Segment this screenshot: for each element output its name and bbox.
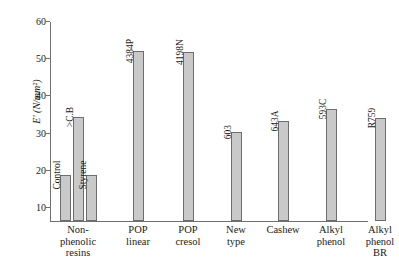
- bar-value-label: 4198N: [175, 39, 188, 65]
- bar-value-label: >C.B: [65, 107, 78, 127]
- x-axis-category-label-line: BR: [347, 247, 399, 259]
- y-axis-tick-label: 40: [0, 91, 46, 101]
- bar-group-item: Styrene: [86, 175, 97, 221]
- x-axis-category-label-line: Non-: [45, 224, 111, 236]
- y-axis-title-text: E' (N/mm²): [31, 79, 42, 123]
- y-axis-tick-label: 50: [0, 54, 46, 64]
- bar-group-item: 4384P: [133, 51, 144, 221]
- x-axis-category-label-line: phenol: [347, 236, 399, 248]
- y-axis-tick-label: 10: [0, 203, 46, 213]
- x-axis-category-label-line: type: [203, 236, 269, 248]
- plot-area: Control>C.BStyrene4384P4198N603643A593CR…: [50, 22, 370, 221]
- bar-value-label: R759: [367, 108, 380, 129]
- bar-group-item: Control: [60, 175, 71, 221]
- bar-value-label: 603: [223, 125, 236, 139]
- y-axis-tick-label: 20: [0, 166, 46, 176]
- bar-group-item: 4198N: [183, 52, 194, 221]
- bar: [326, 109, 337, 221]
- bar-group-item: 603: [231, 132, 242, 221]
- bar-group-item: R759: [375, 118, 386, 221]
- bar: [231, 132, 242, 221]
- x-axis-category-label-line: Alkyl: [347, 224, 399, 236]
- y-axis-tick-label: 30: [0, 129, 46, 139]
- x-axis-category-label: Non-phenolicresins: [45, 224, 111, 259]
- x-axis-category-label: AlkylphenolBR: [347, 224, 399, 259]
- bar: [375, 118, 386, 221]
- bar-value-label: 643A: [270, 110, 283, 131]
- bar-value-label: 4384P: [125, 39, 138, 63]
- y-axis-tick-label: 60: [0, 17, 46, 27]
- x-axis-line: [50, 221, 368, 222]
- bar-value-label: Styrene: [78, 160, 91, 189]
- bar: [278, 121, 289, 221]
- bar: [183, 52, 194, 221]
- bar-group-item: 643A: [278, 121, 289, 221]
- bar: [133, 51, 144, 221]
- bar-value-label: Control: [52, 160, 65, 189]
- x-axis-category-label-line: phenolic: [45, 236, 111, 248]
- bar-value-label: 593C: [318, 99, 331, 120]
- x-axis-category-label-line: resins: [45, 247, 111, 259]
- bar-group-item: 593C: [326, 109, 337, 221]
